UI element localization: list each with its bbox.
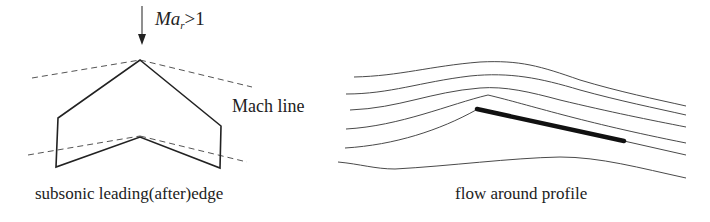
mach-line-label: Mach line bbox=[232, 97, 304, 115]
streamline-1 bbox=[354, 62, 686, 106]
streamline-5a bbox=[345, 110, 476, 148]
lower-mach-lines bbox=[28, 136, 247, 162]
streamline-6 bbox=[338, 157, 686, 178]
streamline-5b bbox=[624, 141, 686, 155]
freestream-arrow-icon bbox=[138, 6, 146, 45]
right-figure-caption: flow around profile bbox=[455, 185, 587, 202]
upper-mach-lines bbox=[32, 60, 252, 87]
wing-planform bbox=[56, 60, 221, 168]
left-figure-caption: subsonic leading(after)edge bbox=[35, 185, 223, 202]
streamlines bbox=[338, 62, 686, 178]
freestream-mach-label: Mar>1 bbox=[155, 9, 205, 31]
diagram-canvas: Mar>1 Mach line subsonic leading(after)e… bbox=[0, 0, 710, 222]
streamline-3 bbox=[350, 88, 686, 127]
